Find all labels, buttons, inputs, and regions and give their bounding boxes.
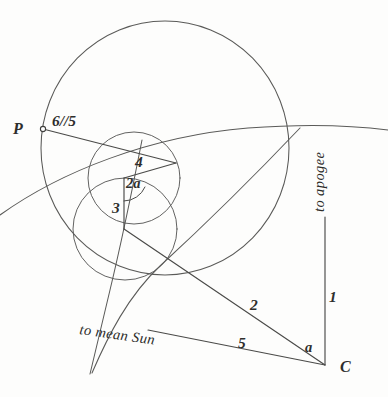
label-point-c: C xyxy=(340,358,351,375)
segment-p-to-apex xyxy=(43,129,176,163)
label-direction-mean-sun: to mean Sun xyxy=(79,321,157,347)
label-direction-apogee: to apogee xyxy=(311,151,327,212)
label-angle-two-alpha: 2a xyxy=(125,175,141,191)
label-segment-two: 2 xyxy=(249,296,258,313)
point-p-dot xyxy=(40,126,45,131)
shallow-orbit-arc xyxy=(0,126,388,215)
label-ratio-six-five: 6//5 xyxy=(52,112,76,129)
geometry-figure: P 6//5 4 2a 3 2 1 5 a C to apogee to mea… xyxy=(0,0,388,397)
deferent-circle xyxy=(41,21,289,275)
label-segment-four: 4 xyxy=(134,153,143,170)
label-angle-alpha: a xyxy=(305,339,312,355)
label-point-p: P xyxy=(12,120,23,137)
label-segment-one: 1 xyxy=(329,288,337,305)
label-segment-five: 5 xyxy=(238,334,246,351)
label-segment-three: 3 xyxy=(111,199,120,216)
diagram-canvas: P 6//5 4 2a 3 2 1 5 a C to apogee to mea… xyxy=(0,0,388,397)
